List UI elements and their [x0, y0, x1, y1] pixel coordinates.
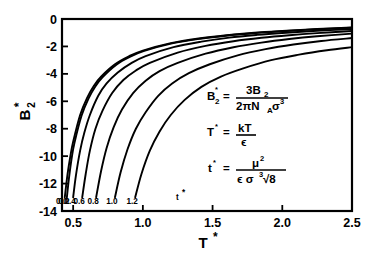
y-tick-label: -10: [39, 150, 57, 164]
y-tick-label: -6: [46, 95, 57, 109]
curve-label: 0.6: [74, 197, 86, 206]
eq2-denominator: ϵ: [241, 136, 247, 148]
y-tick-label: -8: [46, 122, 57, 136]
y-axis-label-star: *: [12, 102, 26, 107]
eq1-numerator: 3B: [246, 84, 261, 96]
eq3-equals: =: [223, 162, 230, 174]
y-axis-label-base: B: [16, 109, 33, 120]
curve-label: 1.0: [106, 197, 118, 206]
y-axis-label-sub: 2: [26, 102, 37, 108]
eq1-lhs-star: *: [215, 85, 218, 94]
x-tick-label: 1.0: [134, 216, 151, 230]
curve-labels: 0.00.20.40.60.81.01.2: [56, 197, 138, 206]
curve-label: 0.8: [87, 197, 99, 206]
y-tick-label: -14: [39, 205, 57, 219]
eq2-lhs-star: *: [215, 122, 218, 131]
eq1-denominator-post: σ: [272, 100, 280, 112]
eq3-lhs-base: t: [208, 162, 212, 174]
x-axis-label-star: *: [213, 230, 218, 244]
eq2-lhs-base: T: [207, 126, 214, 138]
legend-t-label: t: [176, 193, 179, 202]
eq1-denominator-sup: 3: [280, 97, 284, 106]
chart-figure: 0.51.01.52.02.5 0-2-4-6-8-10-12-14 0.00.…: [0, 0, 371, 255]
eq3-denominator-pre: ϵ σ: [237, 173, 254, 185]
y-tick-label: 0: [50, 13, 57, 27]
x-tick-label: 1.5: [204, 216, 221, 230]
eq1-lhs-sub: 2: [215, 97, 220, 106]
eq3-denominator-root: √8: [263, 173, 276, 185]
y-tick-label: -4: [46, 67, 57, 81]
y-tick-label: -2: [46, 40, 57, 54]
x-axis-label-base: T: [198, 234, 207, 251]
x-tick-label: 0.5: [64, 216, 81, 230]
eq3-numerator: μ: [252, 157, 259, 169]
y-tick-label: -12: [39, 177, 57, 191]
eq2-equals: =: [223, 126, 230, 138]
eq1-equals: =: [223, 90, 230, 102]
curve-label: 1.2: [127, 197, 139, 206]
x-tick-label: 2.0: [274, 216, 291, 230]
eq2-numerator: kT: [238, 122, 251, 134]
x-tick-label: 2.5: [343, 216, 360, 230]
eq3-lhs-star: *: [213, 158, 216, 167]
eq3-numerator-sup: 2: [260, 154, 264, 163]
virial-coefficient-chart: 0.51.01.52.02.5 0-2-4-6-8-10-12-14 0.00.…: [0, 0, 371, 255]
eq1-denominator-pre: 2πN: [236, 100, 260, 112]
